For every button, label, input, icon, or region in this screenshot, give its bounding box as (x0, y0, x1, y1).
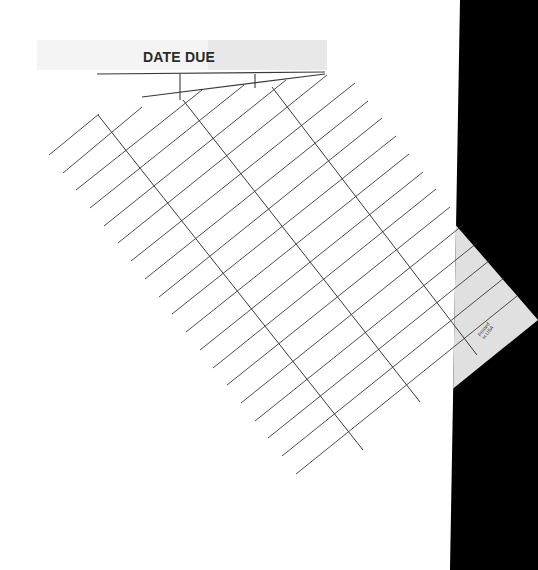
header-band-shaded (208, 40, 327, 70)
row-rule (76, 90, 202, 190)
row-rule (213, 189, 436, 368)
row-rule (159, 118, 382, 297)
row-rule (255, 243, 477, 421)
column-rules (98, 87, 477, 450)
header-rules (97, 72, 325, 100)
row-rule (145, 101, 368, 279)
row-rule (241, 225, 463, 403)
header-rule (97, 72, 325, 74)
row-rule (186, 154, 409, 332)
row-rule (227, 207, 450, 385)
column-rule (272, 87, 477, 355)
scanned-card (0, 0, 538, 570)
row-rules (49, 75, 517, 474)
row-rule (104, 80, 286, 226)
row-rule (63, 107, 142, 173)
card-title: DATE DUE (143, 49, 215, 65)
row-rule (200, 172, 423, 350)
row-rule (172, 136, 396, 314)
row-rule (131, 83, 355, 261)
